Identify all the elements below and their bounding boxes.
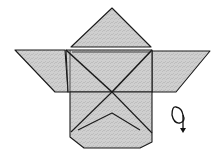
top-flap	[71, 8, 151, 47]
paper-model	[15, 8, 210, 148]
right-wing	[152, 51, 210, 92]
upper-band	[66, 50, 152, 92]
origami-diagram	[0, 0, 217, 163]
left-wing	[15, 50, 68, 92]
turn-over-icon	[172, 107, 186, 133]
